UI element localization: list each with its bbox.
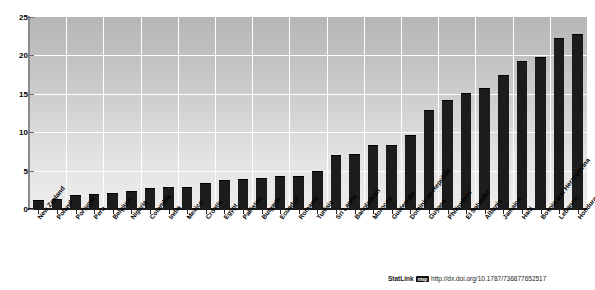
x-tick-mark (466, 209, 467, 214)
x-tick-label: Honduras (576, 192, 595, 220)
x-tick-mark (429, 209, 430, 214)
x-tick-mark (94, 209, 95, 214)
x-tick-mark (392, 209, 393, 214)
x-tick-mark (503, 209, 504, 214)
x-tick-mark (57, 209, 58, 214)
x-tick-mark (578, 209, 579, 214)
x-tick-mark (169, 209, 170, 214)
x-tick-mark (243, 209, 244, 214)
x-tick-mark (410, 209, 411, 214)
x-tick-mark (187, 209, 188, 214)
x-tick-mark (373, 209, 374, 214)
x-tick-label: Nigeria (129, 199, 148, 221)
x-tick-mark (541, 209, 542, 214)
y-tick-mark (29, 17, 34, 18)
y-tick-mark (29, 209, 34, 210)
x-tick-mark (262, 209, 263, 214)
x-tick-label: Jamaica (501, 196, 522, 221)
x-tick-mark (113, 209, 114, 214)
x-tick-mark (280, 209, 281, 214)
x-tick-mark (224, 209, 225, 214)
y-tick-mark (29, 132, 34, 133)
y-tick-mark (29, 94, 34, 95)
x-axis-labels: New ZealandPolandPortugalPeruBelgiumNige… (0, 0, 595, 290)
y-tick-mark (29, 171, 34, 172)
x-tick-label: Tunisia (315, 198, 334, 220)
y-tick-mark (29, 55, 34, 56)
chart-page: 0510152025 New ZealandPolandPortugalPeru… (0, 0, 595, 290)
x-tick-label: Pakistan (241, 195, 263, 220)
x-tick-mark (299, 209, 300, 214)
x-tick-mark (355, 209, 356, 214)
statlink-badge-icon: msp (416, 276, 429, 282)
statlink-url[interactable]: http://dx.doi.org/10.1787/736877652517 (431, 275, 546, 282)
x-tick-mark (485, 209, 486, 214)
x-tick-mark (38, 209, 39, 214)
statlink-label: StatLink (388, 275, 414, 282)
x-tick-mark (76, 209, 77, 214)
x-tick-mark (448, 209, 449, 214)
x-tick-mark (206, 209, 207, 214)
x-tick-mark (336, 209, 337, 214)
x-tick-mark (317, 209, 318, 214)
x-tick-mark (131, 209, 132, 214)
x-tick-mark (150, 209, 151, 214)
statlink-footer[interactable]: StatLink msp http://dx.doi.org/10.1787/7… (388, 275, 546, 282)
x-tick-mark (559, 209, 560, 214)
x-tick-mark (522, 209, 523, 214)
